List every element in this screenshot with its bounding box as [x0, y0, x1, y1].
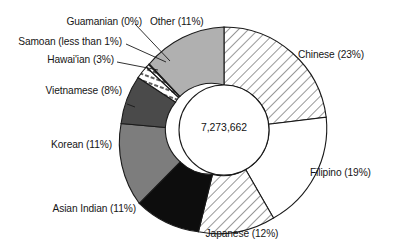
label-chinese: Chinese (23%)	[298, 49, 364, 61]
label-hawaiian: Hawai'ian (3%)	[20, 54, 114, 66]
label-filipino: Filipino (19%)	[310, 167, 371, 179]
label-vietnamese: Vietnamese (8%)	[14, 85, 122, 97]
label-japanese: Japanese (12%)	[182, 228, 302, 240]
center-total-value: 7,273,662	[174, 122, 274, 133]
label-asian-indian: Asian Indian (11%)	[26, 203, 136, 215]
label-guamanian: Guamanian (0%)	[28, 16, 142, 28]
pie-chart-figure: Guamanian (0%) Other (11%) Samoan (less …	[0, 0, 403, 248]
label-other: Other (11%)	[150, 16, 204, 28]
label-korean: Korean (11%)	[18, 139, 112, 151]
label-samoan: Samoan (less than 1%)	[0, 36, 122, 48]
